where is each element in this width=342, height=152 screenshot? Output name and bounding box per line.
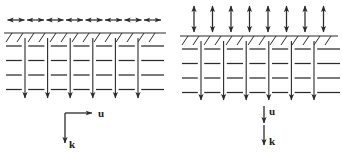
diagram-canvas: u k u k [0, 0, 342, 152]
figure-background [0, 0, 342, 152]
u-vector-label: u [98, 107, 104, 119]
wave-propagation-figure: u k u k [0, 0, 342, 152]
k-vector-label: k [269, 135, 276, 147]
u-vector-label: u [269, 105, 275, 117]
k-vector-label: k [69, 138, 76, 150]
